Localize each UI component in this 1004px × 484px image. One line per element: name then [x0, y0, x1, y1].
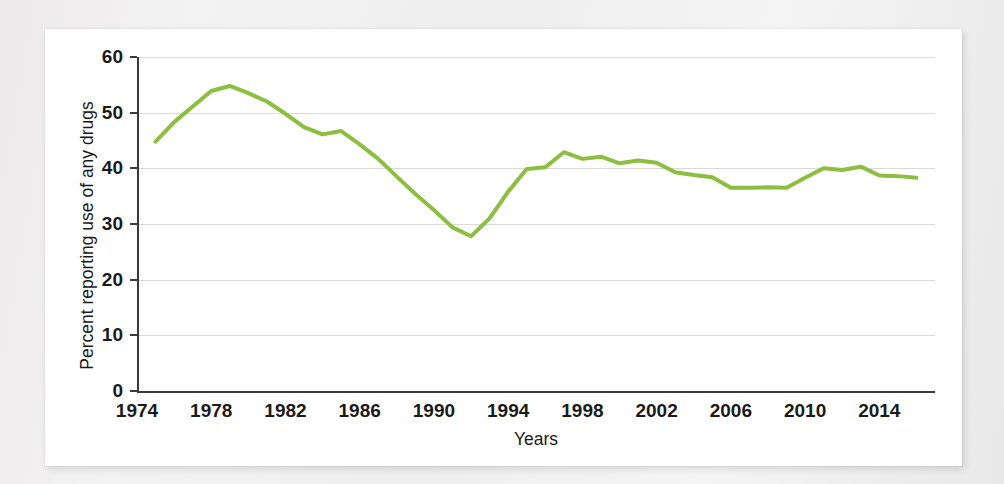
gridline-y-40	[137, 168, 935, 169]
x-tick-label-1998: 1998	[542, 401, 622, 420]
x-tick-label-1978: 1978	[171, 401, 251, 420]
y-tick-mark-40	[130, 167, 137, 169]
x-tick-label-2002: 2002	[617, 401, 697, 420]
gridline-y-60	[137, 57, 935, 58]
y-tick-mark-0	[130, 390, 137, 392]
y-tick-mark-20	[130, 279, 137, 281]
gridline-y-30	[137, 224, 935, 225]
x-tick-label-1974: 1974	[97, 401, 177, 420]
y-tick-mark-50	[130, 112, 137, 114]
y-tick-mark-30	[130, 223, 137, 225]
y-tick-mark-60	[130, 56, 137, 58]
x-tick-label-2006: 2006	[691, 401, 771, 420]
y-tick-label-60: 60	[83, 47, 123, 66]
x-tick-label-1990: 1990	[394, 401, 474, 420]
chart-figure-panel: 0102030405060 19741978198219861990199419…	[45, 29, 962, 466]
x-tick-label-2010: 2010	[765, 401, 845, 420]
x-axis-title: Years	[137, 429, 935, 450]
y-tick-mark-10	[130, 334, 137, 336]
y-axis-title: Percent reporting use of any drugs	[77, 71, 98, 401]
y-axis-line	[137, 57, 139, 393]
chart-plot-root: 0102030405060 19741978198219861990199419…	[45, 29, 962, 466]
gridline-y-20	[137, 280, 935, 281]
x-tick-label-1982: 1982	[245, 401, 325, 420]
gridline-y-50	[137, 113, 935, 114]
x-tick-label-1994: 1994	[468, 401, 548, 420]
gridline-y-10	[137, 335, 935, 336]
y-tick-60: 60	[75, 57, 123, 58]
x-tick-label-1986: 1986	[320, 401, 400, 420]
x-axis-line	[137, 391, 935, 393]
x-tick-label-2014: 2014	[839, 401, 919, 420]
series-line-any-drug-use	[156, 86, 917, 236]
